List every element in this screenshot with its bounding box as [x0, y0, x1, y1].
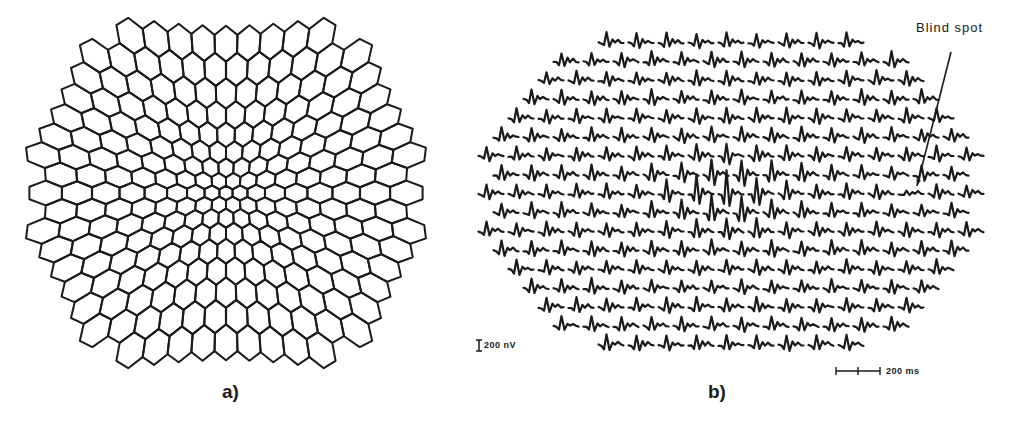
response-trace — [764, 281, 789, 294]
response-trace — [584, 316, 609, 331]
response-trace — [824, 279, 849, 292]
panel-a-label: a) — [222, 381, 239, 403]
response-trace — [524, 202, 549, 218]
response-trace — [674, 91, 699, 103]
response-trace — [839, 259, 864, 273]
response-trace — [824, 203, 849, 217]
response-trace — [494, 204, 519, 218]
response-trace — [869, 261, 894, 275]
response-trace — [929, 146, 954, 162]
response-trace — [599, 223, 624, 237]
response-trace — [659, 179, 684, 202]
response-trace — [809, 72, 834, 86]
response-trace — [704, 317, 729, 330]
response-trace — [854, 89, 879, 105]
response-trace — [629, 298, 654, 311]
response-trace-array — [0, 0, 1028, 432]
response-trace — [689, 144, 714, 161]
response-trace — [689, 219, 714, 237]
response-trace — [644, 201, 669, 217]
response-trace — [479, 147, 504, 161]
response-trace — [749, 34, 774, 48]
response-trace — [569, 148, 594, 161]
response-trace — [614, 317, 639, 330]
response-trace — [929, 223, 954, 237]
response-trace — [749, 335, 774, 349]
response-trace — [599, 72, 624, 86]
response-trace — [764, 53, 789, 67]
response-trace — [644, 51, 669, 65]
response-trace — [719, 298, 744, 311]
response-trace — [764, 91, 789, 104]
response-trace — [944, 167, 969, 181]
response-trace — [719, 71, 744, 86]
response-trace — [659, 297, 684, 313]
response-trace — [674, 281, 699, 293]
response-trace — [659, 336, 684, 351]
response-trace — [779, 181, 804, 199]
response-trace — [644, 317, 669, 330]
response-trace — [884, 127, 909, 141]
arrow-head-icon — [916, 179, 921, 186]
response-trace — [599, 299, 624, 312]
response-trace — [854, 318, 879, 332]
response-trace — [794, 91, 819, 104]
response-trace — [959, 148, 984, 161]
response-trace — [779, 73, 804, 87]
blind-spot-trace — [899, 191, 924, 195]
response-trace — [689, 335, 714, 349]
response-trace — [749, 145, 774, 161]
response-trace — [584, 53, 609, 65]
response-trace — [749, 108, 774, 123]
response-trace — [734, 90, 759, 105]
response-trace — [734, 242, 759, 257]
response-trace — [734, 52, 759, 67]
response-trace — [659, 73, 684, 85]
response-trace — [779, 336, 804, 351]
response-trace — [779, 260, 804, 274]
trace-group — [479, 32, 984, 351]
response-trace — [944, 203, 969, 218]
response-trace — [869, 70, 894, 84]
response-trace — [929, 259, 954, 274]
response-trace — [929, 184, 954, 198]
response-trace — [659, 110, 684, 123]
response-trace — [914, 166, 939, 181]
response-trace — [569, 297, 594, 312]
response-trace — [779, 299, 804, 312]
response-trace — [734, 279, 759, 294]
response-trace — [689, 261, 714, 275]
response-trace — [644, 128, 669, 142]
response-trace — [884, 91, 909, 105]
response-trace — [479, 185, 504, 200]
response-trace — [794, 280, 819, 292]
response-trace — [914, 130, 939, 142]
response-trace — [644, 241, 669, 256]
response-trace — [929, 108, 954, 122]
response-trace — [539, 298, 564, 312]
response-trace — [719, 144, 744, 165]
response-trace — [809, 33, 834, 48]
response-trace — [644, 280, 669, 293]
response-trace — [569, 71, 594, 85]
response-trace — [734, 127, 759, 142]
response-trace — [794, 53, 819, 66]
response-trace — [704, 91, 729, 105]
response-trace — [809, 109, 834, 124]
response-trace — [719, 335, 744, 349]
response-trace — [899, 108, 924, 123]
response-trace — [854, 280, 879, 293]
response-trace — [569, 223, 594, 238]
response-trace — [614, 128, 639, 142]
response-trace — [599, 183, 624, 198]
response-trace — [674, 129, 699, 143]
response-trace — [689, 108, 714, 124]
response-trace — [599, 334, 624, 350]
response-trace — [479, 222, 504, 236]
response-trace — [884, 280, 909, 294]
response-trace — [959, 222, 984, 237]
response-trace — [689, 297, 714, 311]
response-trace — [629, 73, 654, 85]
amplitude-scale-label: 200 nV — [484, 340, 516, 350]
response-trace — [839, 109, 864, 121]
